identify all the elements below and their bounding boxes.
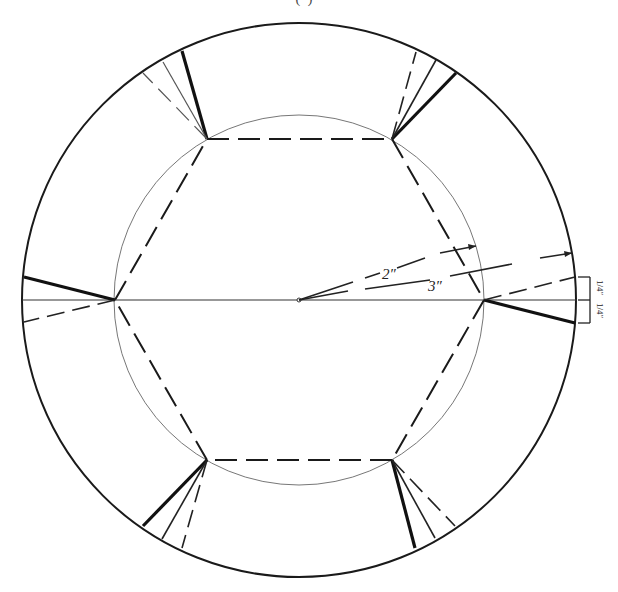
- label-outer-radius: 3″: [427, 278, 443, 294]
- label-inner-radius: 2″: [382, 266, 397, 282]
- offset-dimension: [578, 277, 590, 323]
- label-offset-top: 1/4″: [595, 280, 605, 296]
- label-offset-bottom: 1/4″: [595, 303, 605, 319]
- hexagon-circle-diagram: 2″ 3″ 1/4″ 1/4″: [0, 0, 618, 592]
